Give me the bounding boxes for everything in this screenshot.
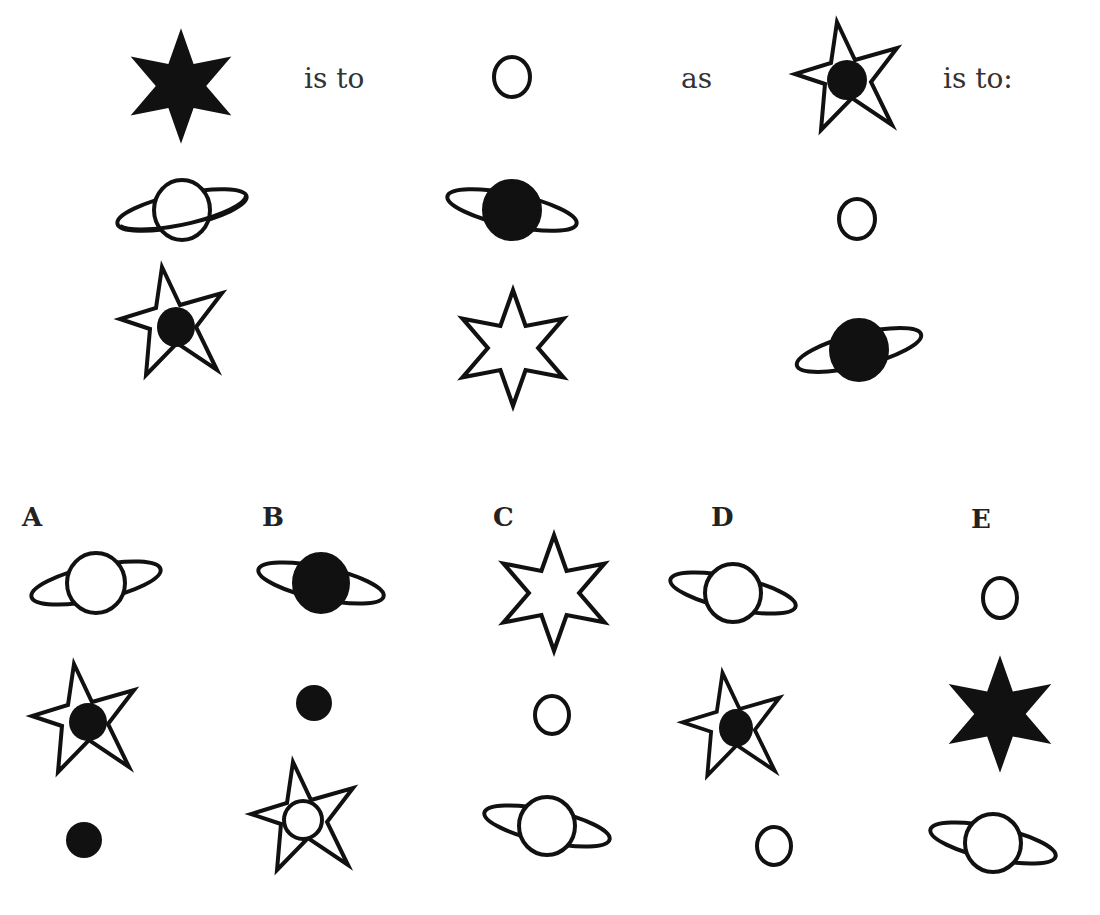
five-point-star-filled-circle-icon	[172, 325, 472, 475]
option-b-label[interactable]: B	[262, 502, 284, 532]
ringed-planet-filled-icon	[859, 350, 1100, 500]
is-to-text-1: is to	[304, 62, 364, 95]
option-e-ringed-planet-hollow-icon	[993, 843, 1100, 915]
hollow-six-point-star-icon	[513, 348, 813, 498]
hollow-circle-icon	[857, 219, 1100, 369]
as-text: as	[681, 62, 712, 95]
option-d-label[interactable]: D	[711, 502, 734, 532]
is-to-text-2: is to:	[943, 62, 1013, 95]
option-c-label[interactable]: C	[493, 502, 514, 532]
hollow-circle-icon	[512, 77, 812, 227]
five-point-star-filled-circle-icon	[847, 80, 1100, 230]
option-a-label[interactable]: A	[22, 502, 42, 532]
ringed-planet-filled-icon	[512, 210, 812, 360]
option-e-label[interactable]: E	[971, 504, 991, 534]
